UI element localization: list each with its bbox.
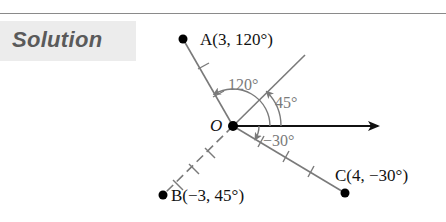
point-A: [179, 35, 188, 44]
label-angle-120: 120°: [228, 76, 258, 93]
label-point-C: C(4, −30°): [335, 166, 408, 185]
label-origin: O: [210, 116, 222, 135]
label-point-A: A(3, 120°): [200, 30, 273, 49]
point-B: [159, 191, 168, 200]
label-point-B: B(−3, 45°): [171, 186, 244, 205]
polar-coordinates-diagram: A(3, 120°) B(−3, 45°) C(4, −30°) O 120° …: [0, 0, 446, 222]
ticks-225: [173, 148, 215, 190]
label-angle-neg30: −30°: [263, 132, 294, 149]
ray-120: [183, 39, 233, 126]
point-C: [341, 189, 350, 198]
point-origin: [228, 121, 238, 131]
label-angle-45: 45°: [275, 94, 297, 111]
arc-neg30: [256, 126, 260, 139]
ray-225-dashed: [164, 126, 233, 194]
